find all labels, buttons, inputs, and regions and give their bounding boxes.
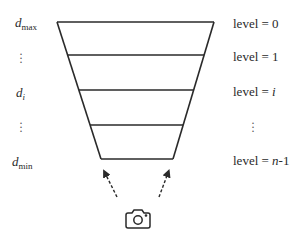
label-level-n-1: level = n-1: [233, 154, 289, 167]
vertical-ellipsis-left-1: ···: [18, 52, 24, 64]
label-d-min: dmin: [12, 155, 33, 171]
label-d-i: di: [16, 86, 25, 102]
label-d-max: dmax: [15, 16, 37, 32]
vertical-ellipsis-right: ···: [250, 121, 256, 133]
label-prefix: level =: [233, 153, 272, 168]
label-sub: i: [23, 92, 26, 102]
label-prefix: level =: [233, 49, 272, 64]
label-sub: min: [19, 161, 33, 171]
camera-icon: [126, 210, 150, 228]
label-prefix: level =: [233, 84, 272, 99]
label-value: i: [272, 84, 276, 99]
label-level-i: level = i: [233, 85, 276, 98]
label-prefix: level =: [233, 16, 272, 31]
view-arrow-right: [159, 173, 168, 197]
label-level-1: level = 1: [233, 50, 279, 63]
label-suffix: -1: [279, 153, 290, 168]
view-arrow-left: [105, 173, 117, 197]
label-value: 1: [272, 49, 279, 64]
vertical-ellipsis-left-2: ···: [18, 121, 24, 133]
label-value: 0: [272, 16, 279, 31]
label-sub: max: [22, 22, 38, 32]
label-level-0: level = 0: [233, 17, 279, 30]
